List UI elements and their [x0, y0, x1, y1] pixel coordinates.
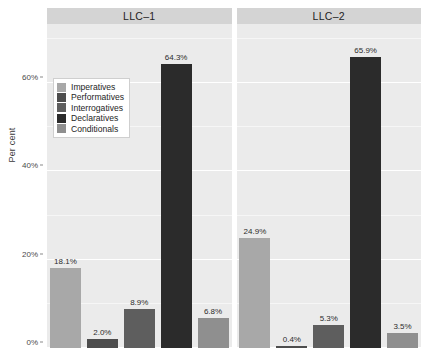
legend-swatch-icon [57, 93, 66, 102]
panel-container: LLC–118.1%2.0%8.9%64.3%6.8%LLC–224.9%0.4… [47, 8, 421, 348]
y-axis-tick-mark [40, 253, 43, 254]
bar-slot: 6.8% [195, 24, 232, 348]
bar-slot: 64.3% [158, 24, 195, 348]
legend: ImperativesPerformativesInterrogativesDe… [53, 78, 130, 138]
panel-title: LLC–1 [123, 10, 155, 22]
bar-value-label: 18.1% [47, 257, 84, 266]
panel-title: LLC–2 [313, 10, 345, 22]
legend-item-conditionals[interactable]: Conditionals [57, 124, 124, 134]
bar[interactable] [350, 57, 381, 348]
legend-swatch-icon [57, 114, 66, 123]
legend-swatch-icon [57, 103, 66, 112]
bar[interactable] [50, 268, 81, 348]
y-axis-tick-label: 0% [26, 338, 38, 347]
bar-slot: 18.1% [47, 24, 84, 348]
legend-item-label: Performatives [71, 92, 124, 102]
bar-slot: 8.9% [121, 24, 158, 348]
legend-swatch-icon [57, 83, 66, 92]
legend-item-interrogatives[interactable]: Interrogatives [57, 103, 124, 113]
legend-item-label: Imperatives [71, 82, 115, 92]
legend-item-label: Declaratives [71, 113, 118, 123]
bar[interactable] [124, 309, 155, 348]
bar-slot: 5.3% [310, 24, 347, 348]
bar-value-label: 3.5% [384, 322, 421, 331]
y-axis-tick-mark [40, 342, 43, 343]
bar[interactable] [239, 238, 270, 348]
facet-bar-chart: Per cent 0%20%40%60% LLC–118.1%2.0%8.9%6… [0, 0, 427, 364]
bar-value-label: 64.3% [158, 53, 195, 62]
bar-slot: 0.4% [273, 24, 310, 348]
bar-value-label: 0.4% [273, 335, 310, 344]
bar-value-label: 6.8% [195, 307, 232, 316]
y-axis-tick-mark [40, 77, 43, 78]
panel-plot-area: 18.1%2.0%8.9%64.3%6.8% [47, 24, 232, 348]
y-axis-tick-label: 20% [22, 249, 38, 258]
bar-slot: 2.0% [84, 24, 121, 348]
panel-1: LLC–118.1%2.0%8.9%64.3%6.8% [47, 8, 232, 348]
legend-item-label: Interrogatives [71, 103, 123, 113]
y-axis-ticks: 0%20%40%60% [0, 0, 46, 364]
bar-value-label: 24.9% [237, 227, 274, 236]
bar-value-label: 65.9% [347, 46, 384, 55]
y-axis-tick-label: 40% [22, 161, 38, 170]
legend-swatch-icon [57, 124, 66, 133]
panel-plot-area: 24.9%0.4%5.3%65.9%3.5% [237, 24, 422, 348]
bar[interactable] [387, 333, 418, 348]
bar-slot: 65.9% [347, 24, 384, 348]
panel-2: LLC–224.9%0.4%5.3%65.9%3.5% [237, 8, 422, 348]
bar-group: 18.1%2.0%8.9%64.3%6.8% [47, 24, 232, 348]
legend-item-performatives[interactable]: Performatives [57, 92, 124, 102]
bar[interactable] [87, 339, 118, 348]
legend-item-label: Conditionals [71, 124, 118, 134]
bar[interactable] [313, 325, 344, 348]
y-axis-tick-mark [40, 165, 43, 166]
panel-title-strip: LLC–2 [237, 8, 422, 24]
bar-slot: 24.9% [237, 24, 274, 348]
y-axis-tick-label: 60% [22, 73, 38, 82]
bar-value-label: 2.0% [84, 328, 121, 337]
bar-value-label: 5.3% [310, 314, 347, 323]
bar-slot: 3.5% [384, 24, 421, 348]
bar-group: 24.9%0.4%5.3%65.9%3.5% [237, 24, 422, 348]
bar-value-label: 8.9% [121, 298, 158, 307]
bar[interactable] [198, 318, 229, 348]
bar[interactable] [161, 64, 192, 348]
bar[interactable] [276, 346, 307, 348]
legend-item-imperatives[interactable]: Imperatives [57, 82, 124, 92]
panel-title-strip: LLC–1 [47, 8, 232, 24]
legend-item-declaratives[interactable]: Declaratives [57, 113, 124, 123]
